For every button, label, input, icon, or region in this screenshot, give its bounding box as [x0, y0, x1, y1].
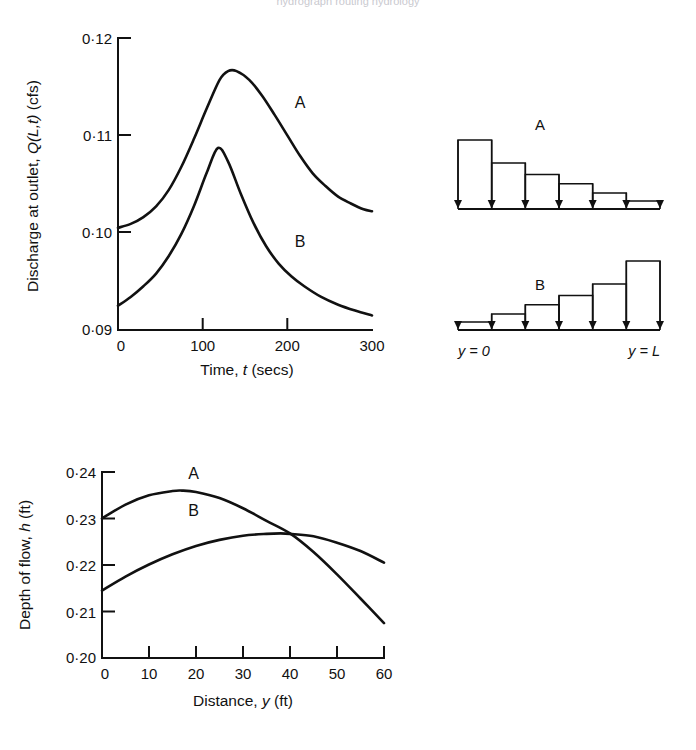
discharge-curve-a-label: A [295, 94, 306, 111]
clipped-header-text: hydrograph routing hydrology [276, 0, 420, 7]
discharge-ytick-009: 0·09 [82, 321, 112, 338]
rainfall-a-bar [626, 201, 660, 209]
discharge-yaxis-symbol: Q(L,t) [24, 114, 41, 154]
depth-chart: 0·24 0·23 0·22 0·21 0·20 0102030405060 D… [16, 464, 392, 709]
depth-curve-b [102, 533, 384, 590]
rainfall-a-arrow-head [589, 200, 597, 209]
rainfall-a-arrow-head [555, 200, 563, 209]
figure-root: hydrograph routing hydrology 0·12 0·11 0… [0, 0, 696, 750]
depth-ytick-024: 0·24 [66, 464, 96, 481]
discharge-curve-b [118, 148, 372, 316]
rainfall-a-bar [593, 193, 627, 209]
rainfall-b-bar [458, 322, 492, 330]
depth-xtick-label-30: 30 [235, 665, 252, 682]
depth-xtick-label-10: 10 [141, 665, 158, 682]
discharge-xtick-100: 100 [190, 337, 215, 354]
depth-curve-b-label: B [188, 502, 199, 519]
depth-xtick-label-0: 0 [101, 665, 109, 682]
rainfall-b-arrow-head [555, 321, 563, 330]
discharge-axis-lines [118, 38, 372, 330]
discharge-xtick-0: 0 [117, 337, 125, 354]
depth-xtick-label-50: 50 [329, 665, 346, 682]
rainfall-a-bar [492, 163, 526, 209]
discharge-yaxis-title: Discharge at outlet, Q(L,t) (cfs) [24, 80, 41, 292]
rainfall-b-arrow-head [521, 321, 529, 330]
rainfall-b-arrow-head [488, 321, 496, 330]
depth-xtick-label-60: 60 [376, 665, 393, 682]
discharge-curve-b-label: B [295, 233, 306, 250]
discharge-yaxis-unit: (cfs) [24, 80, 41, 114]
depth-axis-lines [102, 472, 384, 658]
discharge-xaxis-lead: Time, [200, 361, 242, 378]
rainfall-b-arrow-head [656, 321, 664, 330]
rainfall-a-bar [559, 184, 593, 209]
rainfall-b-bar [525, 305, 559, 330]
rainfall-b-arrow-head [454, 321, 462, 330]
depth-yaxis-lead: Depth of flow, [16, 532, 33, 630]
discharge-xtick-300: 300 [359, 337, 384, 354]
discharge-y-ticks [118, 38, 131, 232]
depth-ytick-023: 0·23 [66, 511, 96, 528]
discharge-chart: 0·12 0·11 0·10 0·09 0 100 200 300 Time, … [24, 30, 385, 378]
discharge-ytick-010: 0·10 [82, 224, 112, 241]
depth-yaxis-unit: (ft) [16, 500, 33, 523]
rainfall-a-arrow-head [521, 200, 529, 209]
depth-ytick-020: 0·20 [66, 649, 96, 666]
position-label-origin: y = 0 [457, 343, 490, 359]
depth-xaxis-title: Distance, y (ft) [193, 692, 293, 709]
position-label-length: y = L [627, 343, 660, 359]
rainfall-b-bar [492, 314, 526, 330]
discharge-xaxis-unit: (secs) [247, 361, 294, 378]
rainfall-b-arrow-head [622, 321, 630, 330]
discharge-yaxis-lead: Discharge at outlet, [24, 154, 41, 292]
depth-x-ticks [149, 646, 384, 658]
depth-ytick-021: 0·21 [66, 604, 96, 621]
depth-ytick-022: 0·22 [66, 557, 96, 574]
rainfall-b-bar [626, 261, 660, 330]
rainfall-a-arrow-head [656, 200, 664, 209]
rainfall-b-arrow-head [589, 321, 597, 330]
depth-xtick-label-40: 40 [282, 665, 299, 682]
depth-yaxis-symbol: h [16, 523, 33, 532]
discharge-xaxis-title: Time, t (secs) [200, 361, 293, 378]
discharge-x-ticks [203, 318, 288, 330]
rainfall-b-bar [593, 284, 627, 330]
rainfall-a-bar [525, 175, 559, 210]
figure-svg: hydrograph routing hydrology 0·12 0·11 0… [0, 0, 696, 750]
discharge-ytick-011: 0·11 [83, 127, 112, 144]
rainfall-a-arrow-head [622, 200, 630, 209]
depth-curve-a [102, 490, 384, 623]
depth-yaxis-title: Depth of flow, h (ft) [16, 500, 33, 630]
rainfall-a-arrow-head [454, 200, 462, 209]
rainfall-a-arrow-head [488, 200, 496, 209]
rainfall-a-bar [458, 140, 492, 209]
depth-x-tick-labels: 0102030405060 [101, 665, 393, 682]
depth-xtick-label-20: 20 [188, 665, 205, 682]
rainfall-b-bar [559, 296, 593, 331]
depth-xaxis-lead: Distance, [193, 692, 262, 709]
depth-curve-a-label: A [188, 465, 199, 482]
rainfall-pattern-b: B y = 0 y = L [454, 261, 664, 359]
rainfall-pattern-a: A [454, 116, 664, 209]
rainfall-a-label: A [535, 116, 545, 133]
discharge-xtick-200: 200 [275, 337, 300, 354]
depth-xaxis-unit: (ft) [270, 692, 293, 709]
rainfall-b-label: B [535, 276, 545, 293]
discharge-ytick-012: 0·12 [82, 30, 112, 47]
